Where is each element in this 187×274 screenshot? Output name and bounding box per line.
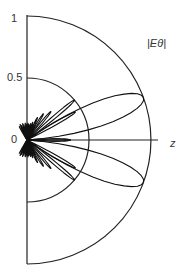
polar-chart: 1 0.5 0 z |Eθ| bbox=[0, 0, 187, 274]
tick-label-1: 1 bbox=[11, 12, 17, 24]
tick-label-0.5: 0.5 bbox=[7, 71, 22, 83]
lobe bbox=[27, 100, 75, 140]
lobe bbox=[27, 140, 75, 180]
series-label: |Eθ| bbox=[147, 37, 166, 49]
z-axis-label: z bbox=[169, 137, 176, 149]
tick-label-0: 0 bbox=[11, 133, 17, 145]
